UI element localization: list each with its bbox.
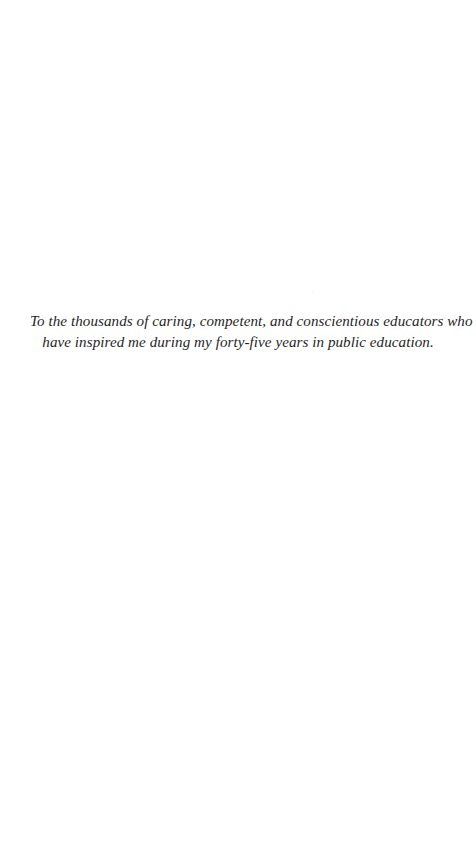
- book-page: To the thousands of caring, competent, a…: [0, 0, 476, 851]
- dedication-line-1: To the thousands of caring, competent, a…: [30, 311, 446, 332]
- scan-artifact-speck: [312, 290, 314, 293]
- dedication-text-block: To the thousands of caring, competent, a…: [0, 311, 476, 353]
- dedication-line-2: have inspired me during my forty-five ye…: [30, 332, 446, 353]
